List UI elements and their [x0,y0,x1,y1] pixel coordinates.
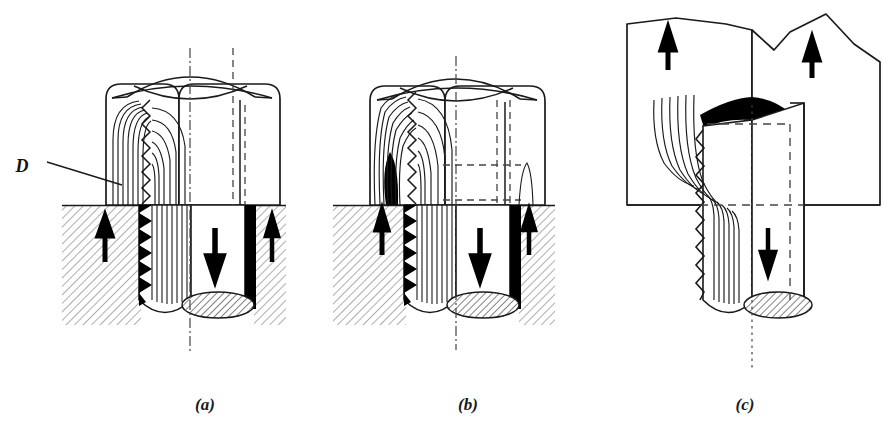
panel-b-caption: (b) [458,395,478,414]
bolted-joint-figure: D (a) [0,0,888,431]
callout-d-label: D [15,156,29,176]
panel-c-bolt-end-ellipse [744,292,812,318]
panel-c-shank-right [752,103,804,312]
panel-c-caption: (c) [736,395,755,414]
panel-a-bolt-end-ellipse [182,292,254,318]
panel-b-bore-wall-black [510,205,521,309]
panel-b-bolt-end-ellipse [447,292,519,318]
panel-a-caption: (a) [195,395,215,414]
panel-a-bore-wall-black [245,205,256,309]
